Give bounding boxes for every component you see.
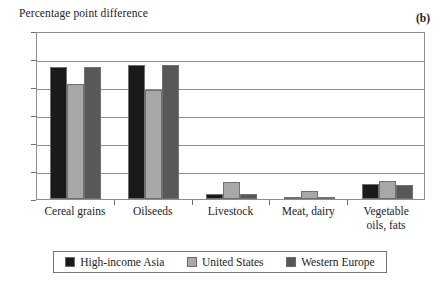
bar [162,65,179,199]
legend-item: High-income Asia [65,256,164,268]
legend-swatch-icon [65,257,75,267]
legend-label: Western Europe [301,256,374,268]
bar [50,67,67,199]
legend-label: High-income Asia [80,256,164,268]
bar [240,194,257,199]
bar [67,84,84,199]
x-axis-tick-label-line: Vegetable [331,205,440,219]
bar [206,194,223,199]
legend-swatch-icon [286,257,296,267]
bar-chart-figure: Percentage point difference (b) 02468101… [0,0,440,285]
legend-swatch-icon [187,257,197,267]
bar [145,90,162,199]
bar-group [362,33,413,199]
axis-title: Percentage point difference [19,7,148,19]
bar [379,181,396,199]
bar [128,65,145,199]
bar-group [206,33,257,199]
x-axis-tick-label: Vegetableoils, fats [331,205,440,232]
legend-item: United States [187,256,264,268]
chart-legend: High-income AsiaUnited StatesWestern Eur… [53,251,387,273]
bar [396,185,413,199]
bar [223,182,240,200]
bar [284,197,301,199]
bar-group [128,33,179,199]
bar-series-container [37,33,424,199]
y-axis-tick-mark [31,200,36,201]
x-axis-tick-label-line: oils, fats [331,219,440,233]
bar [84,67,101,199]
bar [301,191,318,199]
bar [318,197,335,199]
bar-group [50,33,101,199]
plot-area [36,32,425,200]
bar-group [284,33,335,199]
legend-label: United States [202,256,264,268]
panel-letter-annotation: (b) [416,12,430,24]
bar [362,184,379,199]
legend-item: Western Europe [286,256,374,268]
